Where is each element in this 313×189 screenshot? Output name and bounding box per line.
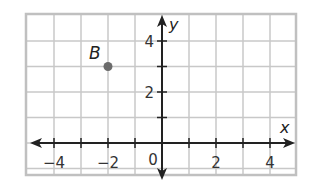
tick-labels: −4−224024 bbox=[43, 33, 275, 172]
y-tick-label: 4 bbox=[144, 33, 154, 51]
y-axis-label: y bbox=[168, 15, 179, 34]
x-axis-label: x bbox=[279, 118, 290, 137]
coordinate-plane: −4−224024 x y B bbox=[0, 0, 313, 189]
x-tick-label: −4 bbox=[43, 154, 65, 172]
y-tick-label: 2 bbox=[144, 84, 154, 102]
point-label: B bbox=[89, 43, 101, 63]
axes bbox=[30, 15, 295, 180]
point-marker bbox=[104, 62, 113, 71]
origin-label: 0 bbox=[148, 151, 158, 169]
x-tick-label: 2 bbox=[211, 154, 221, 172]
x-tick-label: −2 bbox=[97, 154, 119, 172]
x-tick-label: 4 bbox=[265, 154, 275, 172]
